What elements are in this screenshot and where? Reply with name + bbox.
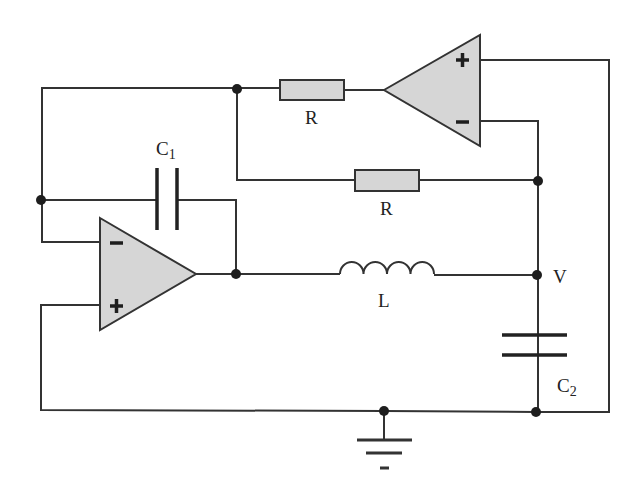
opamp-bottom [100,218,196,330]
capacitor-c2 [502,335,567,355]
junction-top [232,84,242,94]
capacitor-c1-label: C1 [156,138,176,162]
junction-opamp-output [231,269,241,279]
inductor-label: L [378,290,390,311]
capacitor-c2-label: C2 [557,375,577,399]
junction-right-mid [533,176,543,186]
inductor [340,262,434,274]
junction-ground [379,406,389,416]
resistor-mid [355,170,419,191]
node-v-label: V [553,266,567,287]
resistor-mid-label: R [380,198,393,219]
resistor-top [280,80,344,100]
circuit-diagram: R R C1 L C2 V [0,0,641,498]
ground-icon [357,440,412,468]
junction-node-v [532,270,542,280]
resistor-top-label: R [305,107,318,128]
junction-bottom-right [531,407,541,417]
capacitor-c1 [157,168,177,230]
junction-left [36,195,46,205]
opamp-top [384,35,480,146]
